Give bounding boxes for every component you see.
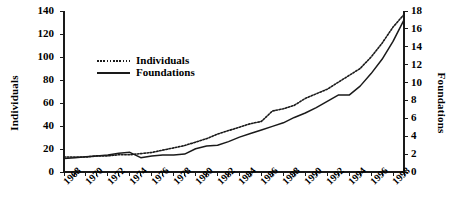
y-tick-label-right: 16 (411, 22, 435, 34)
series-line-individuals (64, 14, 404, 157)
y-tick-label-right: 6 (411, 111, 435, 123)
y-tick-label-right: 0 (411, 165, 435, 177)
y-tick-label-left: 20 (24, 142, 54, 154)
y-tick-label-left: 140 (24, 4, 54, 16)
y-tick-label-right: 10 (411, 76, 435, 88)
series-line-foundations (64, 20, 404, 159)
y-tick-label-left: 0 (24, 165, 54, 177)
y-tick-label-right: 8 (411, 93, 435, 105)
legend-swatches (97, 61, 130, 73)
y-tick-label-left: 100 (24, 50, 54, 62)
chart-container: Individuals Foundations 0204060801001201… (0, 0, 457, 211)
data-series-group (64, 14, 404, 158)
y-tick-label-right: 12 (411, 58, 435, 70)
y-tick-label-left: 60 (24, 96, 54, 108)
y-tick-label-left: 120 (24, 27, 54, 39)
legend-label-individuals: Individuals (136, 54, 189, 66)
axis-ticks (60, 11, 408, 176)
y-tick-label-left: 80 (24, 73, 54, 85)
y-axis-title-left: Individuals (8, 58, 20, 148)
y-tick-label-right: 2 (411, 147, 435, 159)
y-tick-label-right: 14 (411, 40, 435, 52)
legend-label-foundations: Foundations (136, 66, 195, 78)
y-tick-label-left: 40 (24, 119, 54, 131)
y-axis-title-right: Foundations (436, 58, 448, 148)
y-tick-label-right: 18 (411, 4, 435, 16)
y-tick-label-right: 4 (411, 129, 435, 141)
